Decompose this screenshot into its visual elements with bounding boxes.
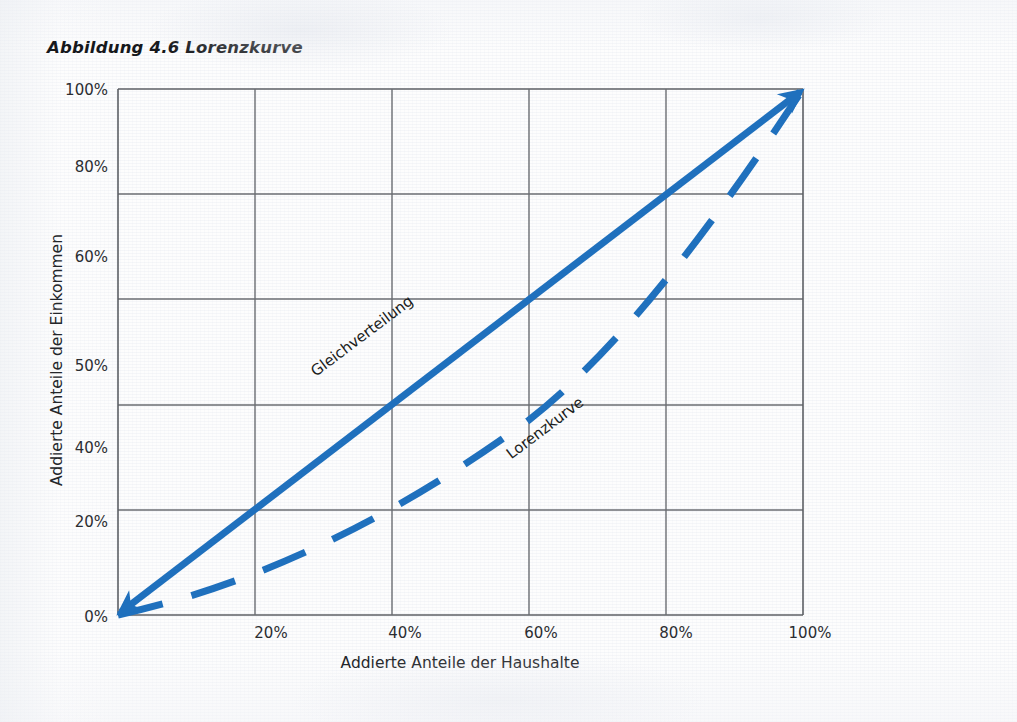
y-axis-title: Addierte Anteile der Einkommen — [48, 234, 66, 486]
x-tick-label-60: 60% — [524, 624, 557, 642]
y-axis-tick-labels: 100% 80% 60% 50% 40% 20% 0% — [65, 81, 108, 626]
figure-page: Abbildung 4.6 Lorenzkurve — [0, 0, 1017, 722]
x-tick-label-40: 40% — [388, 624, 421, 642]
y-tick-label-80: 80% — [75, 158, 108, 176]
y-tick-label-100: 100% — [65, 81, 108, 99]
lorenz-curve-chart: Gleichverteilung Lorenzkurve 100% 80% 60… — [0, 0, 1017, 722]
x-tick-label-80: 80% — [659, 624, 692, 642]
y-tick-label-60: 60% — [75, 248, 108, 266]
series-gleichverteilung — [121, 92, 800, 612]
series-label-gleichverteilung: Gleichverteilung — [307, 292, 416, 381]
x-tick-label-20: 20% — [254, 624, 287, 642]
x-axis-tick-labels: 20% 40% 60% 80% 100% — [254, 624, 831, 642]
x-axis-title: Addierte Anteile der Haushalte — [341, 654, 580, 672]
y-tick-label-20: 20% — [75, 513, 108, 531]
y-tick-label-40: 40% — [75, 439, 108, 457]
x-tick-label-100: 100% — [789, 624, 832, 642]
y-tick-label-50: 50% — [75, 357, 108, 375]
y-tick-label-0: 0% — [84, 608, 108, 626]
